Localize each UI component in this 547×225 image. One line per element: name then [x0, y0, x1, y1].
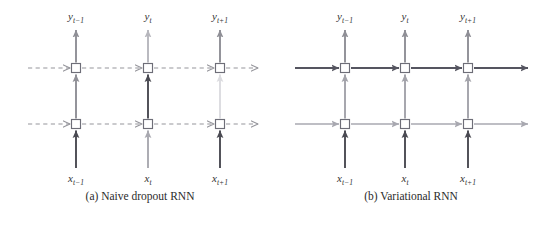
panel-b-node-upper-2	[401, 64, 410, 73]
panel-a-output-label-1: yt−1	[67, 10, 84, 25]
panel-a-output-label-2: yt	[143, 10, 152, 25]
panel-a-node-upper-2	[144, 64, 153, 73]
panel-b-input-label-3: xt+1	[459, 172, 476, 187]
panel-b-output-label-2: yt	[400, 10, 409, 25]
panel-b-input-label-1: xt−1	[336, 172, 353, 187]
panel-a-caption: (a) Naive dropout RNN	[0, 190, 280, 202]
panel-a-input-label-2: xt	[143, 172, 152, 187]
panel-b-node-upper-3	[464, 64, 473, 73]
panel-a-input-label-1: xt−1	[67, 172, 84, 187]
panel-b-node-lower-2	[401, 120, 410, 129]
panel-b-output-label-1: yt−1	[336, 10, 353, 25]
panel-b-input-label-2: xt	[400, 172, 409, 187]
panel-a-node-lower-2	[144, 120, 153, 129]
panel-a-output-label-3: yt+1	[211, 10, 228, 25]
panel-b-caption: (b) Variational RNN	[275, 190, 547, 202]
panel-a-node-lower-3	[216, 120, 225, 129]
panel-b-node-lower-3	[464, 120, 473, 129]
panel-a-node-upper-3	[216, 64, 225, 73]
panel-b-output-label-3: yt+1	[459, 10, 476, 25]
panel-a-node-upper-1	[72, 64, 81, 73]
panel-b-node-upper-1	[341, 64, 350, 73]
panel-a-input-label-3: xt+1	[211, 172, 228, 187]
panel-b-node-lower-1	[341, 120, 350, 129]
panel-a-node-lower-1	[72, 120, 81, 129]
rnn-dropout-figure: yt−1xt−1ytxtyt+1xt+1yt−1xt−1ytxtyt+1xt+1…	[0, 0, 547, 225]
diagram-layers: yt−1xt−1ytxtyt+1xt+1yt−1xt−1ytxtyt+1xt+1	[28, 10, 528, 187]
